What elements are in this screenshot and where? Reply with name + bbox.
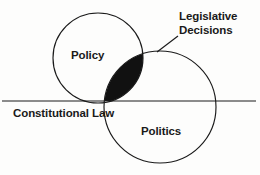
- label-policy: Policy: [71, 49, 104, 62]
- legislative-decisions-leader-line: [157, 36, 178, 52]
- label-legislative-decisions-line-1: Legislative: [179, 10, 237, 22]
- label-legislative-decisions-line-2: Decisions: [179, 23, 237, 37]
- venn-diagram: Policy Politics Constitutional Law Legis…: [0, 0, 260, 175]
- label-politics: Politics: [141, 125, 181, 138]
- politics-circle: [104, 51, 216, 163]
- label-legislative-decisions: LegislativeDecisions: [179, 9, 237, 37]
- label-constitutional-law: Constitutional Law: [13, 107, 114, 120]
